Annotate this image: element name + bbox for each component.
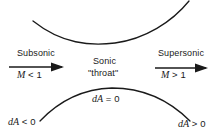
- upper-nozzle-wall-curve: [33, 1, 189, 44]
- subsonic-mach-condition: M < 1: [17, 70, 42, 80]
- area-change-symbol-left: dA: [8, 116, 19, 127]
- area-change-relation-right: > 0: [189, 118, 206, 129]
- subsonic-arrow-head: [51, 63, 64, 72]
- supersonic-arrow-head: [195, 64, 208, 73]
- area-change-symbol-center: dA: [92, 93, 103, 104]
- throat-label: "throat": [88, 68, 118, 78]
- area-change-positive-label: dA > 0: [178, 119, 206, 129]
- nozzle-throat-figure: Subsonic M < 1 Sonic "throat" Supersonic…: [0, 0, 222, 138]
- supersonic-mach-relation: > 1: [169, 69, 186, 80]
- area-change-symbol-right: dA: [178, 118, 189, 129]
- supersonic-mach-condition: M > 1: [161, 70, 186, 80]
- area-change-zero-label: dA = 0: [92, 94, 120, 104]
- sonic-region-label: Sonic: [93, 56, 116, 66]
- area-change-negative-label: dA < 0: [8, 117, 36, 127]
- area-change-relation-center: = 0: [103, 93, 120, 104]
- supersonic-region-label: Supersonic: [158, 48, 204, 58]
- subsonic-region-label: Subsonic: [17, 48, 55, 58]
- area-change-relation-left: < 0: [19, 116, 36, 127]
- subsonic-mach-relation: < 1: [25, 69, 42, 80]
